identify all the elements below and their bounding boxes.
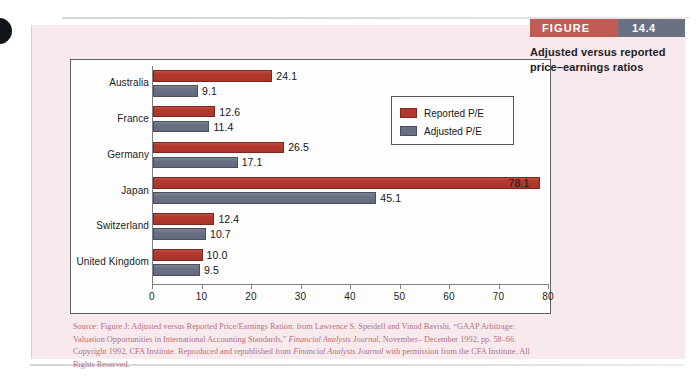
y-axis-category-label: France bbox=[117, 113, 149, 124]
x-axis-tick bbox=[400, 284, 401, 289]
figure-tag-label: FIGURE bbox=[530, 19, 618, 37]
source-line-3-italic: Financial Analysts Journal bbox=[293, 347, 383, 356]
bar-reported bbox=[153, 142, 284, 154]
x-axis-tick-label: 80 bbox=[542, 291, 554, 302]
bar-value-label: 26.5 bbox=[288, 141, 309, 153]
bar-value-label: 9.5 bbox=[204, 264, 219, 276]
bar-adjusted bbox=[153, 121, 209, 133]
bar-reported bbox=[153, 249, 203, 261]
legend-item-adjusted: Adjusted P/E bbox=[400, 124, 482, 138]
bar-value-label: 10.0 bbox=[207, 249, 228, 261]
chart-container: 01020304050607080Australia24.19.1France1… bbox=[70, 59, 551, 314]
x-axis-tick bbox=[548, 284, 549, 289]
source-line-2-italic: Financial Analysts Journal bbox=[288, 335, 378, 344]
bar-value-label: 17.1 bbox=[242, 156, 263, 168]
legend-swatch-adjusted-icon bbox=[400, 126, 417, 136]
bar-value-label: 24.1 bbox=[276, 70, 297, 82]
y-axis-category-label: Australia bbox=[109, 77, 149, 88]
chart-legend: Reported P/E Adjusted P/E bbox=[391, 96, 514, 145]
bar-value-label: 10.7 bbox=[210, 228, 231, 240]
bar-value-label: 45.1 bbox=[380, 192, 401, 204]
x-axis-tick bbox=[499, 284, 500, 289]
bar-reported bbox=[153, 177, 540, 189]
source-line-1: Source: Figure J: Adjusted versus Report… bbox=[73, 322, 479, 331]
x-axis-tick bbox=[251, 284, 252, 289]
bar-value-label: 11.4 bbox=[213, 121, 233, 133]
x-axis-tick bbox=[350, 284, 351, 289]
y-axis-category-label: United Kingdom bbox=[76, 256, 149, 267]
figure-caption: Adjusted versus reported price–earnings … bbox=[530, 45, 682, 75]
figure-caption-line-2: price–earnings ratios bbox=[530, 60, 682, 75]
bar-value-label: 12.6 bbox=[219, 106, 240, 118]
x-axis-tick-label: 10 bbox=[196, 291, 208, 302]
page-edge-mark bbox=[0, 18, 12, 44]
x-axis-tick-label: 50 bbox=[394, 291, 406, 302]
x-axis-tick-label: 20 bbox=[245, 291, 257, 302]
source-note: Source: Figure J: Adjusted versus Report… bbox=[73, 321, 543, 371]
figure-tag-number: 14.4 bbox=[618, 19, 685, 37]
x-axis-tick bbox=[152, 284, 153, 289]
y-axis-category-label: Switzerland bbox=[96, 220, 149, 231]
bar-reported bbox=[153, 106, 215, 118]
x-axis-tick-label: 0 bbox=[149, 291, 155, 302]
legend-label-reported: Reported P/E bbox=[424, 108, 484, 119]
legend-item-reported: Reported P/E bbox=[400, 106, 484, 120]
bar-adjusted bbox=[153, 85, 198, 97]
x-axis-tick-label: 40 bbox=[344, 291, 356, 302]
x-axis-tick-label: 60 bbox=[443, 291, 455, 302]
bar-value-label: 78.1 bbox=[509, 177, 530, 189]
x-axis-tick-label: 30 bbox=[295, 291, 307, 302]
bar-reported bbox=[153, 213, 214, 225]
figure-caption-line-1: Adjusted versus reported bbox=[530, 45, 682, 60]
y-axis-category-label: Japan bbox=[121, 185, 149, 196]
legend-swatch-reported-icon bbox=[400, 108, 417, 118]
x-axis-tick bbox=[449, 284, 450, 289]
x-axis-tick bbox=[301, 284, 302, 289]
figure-panel: 01020304050607080Australia24.19.1France1… bbox=[31, 25, 685, 359]
bar-adjusted bbox=[153, 157, 238, 169]
bar-adjusted bbox=[153, 228, 206, 240]
y-axis-category-label: Germany bbox=[107, 149, 149, 160]
legend-label-adjusted: Adjusted P/E bbox=[424, 126, 482, 137]
bar-adjusted bbox=[153, 264, 200, 276]
bar-adjusted bbox=[153, 192, 376, 204]
figure-tag: FIGURE 14.4 bbox=[530, 19, 685, 37]
x-axis-tick bbox=[202, 284, 203, 289]
x-axis-tick-label: 70 bbox=[493, 291, 505, 302]
bar-value-label: 12.4 bbox=[218, 213, 239, 225]
source-line-2b: , November– bbox=[379, 335, 422, 344]
bar-value-label: 9.1 bbox=[202, 85, 217, 97]
bar-reported bbox=[153, 70, 272, 82]
